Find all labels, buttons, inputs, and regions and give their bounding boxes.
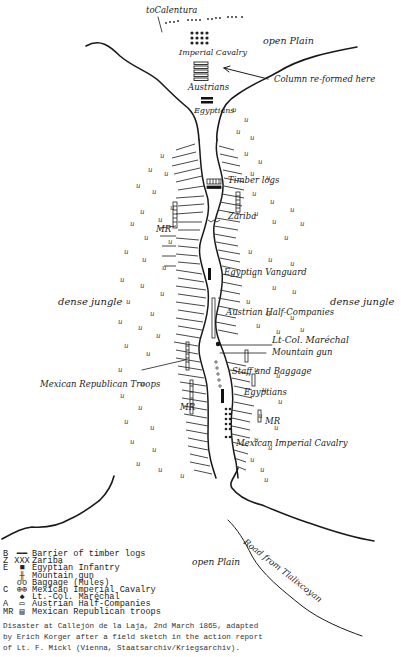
svg-text:u: u — [256, 322, 261, 330]
svg-text:u: u — [170, 204, 175, 212]
ravine-edge-right-bottom — [231, 468, 374, 541]
svg-text:u: u — [300, 326, 305, 334]
imperial-cavalry-top-symbol — [190, 31, 208, 44]
label-mr-right: MR — [264, 416, 281, 426]
svg-text:u: u — [244, 150, 249, 158]
label-dense-jungle-right: dense jungle — [330, 296, 395, 307]
svg-text:u: u — [142, 256, 147, 264]
svg-text:u: u — [152, 446, 157, 454]
caption-line-3: of Lt. F. Mickl (Vienna, Staatsarchiv/Kr… — [3, 643, 263, 654]
baggage-mules-symbol — [215, 361, 221, 387]
svg-text:u: u — [290, 206, 295, 214]
svg-text:u: u — [244, 116, 249, 124]
svg-text:u: u — [126, 298, 131, 306]
svg-text:u: u — [150, 310, 155, 318]
egyptian-vanguard-symbol — [208, 268, 211, 280]
label-road-from-tlalixcoyan: Road from Tlalixcoyan — [241, 536, 324, 604]
ravine-edge-right-top — [217, 47, 357, 140]
svg-text:u: u — [250, 134, 255, 142]
svg-text:u: u — [250, 456, 255, 464]
svg-text:u: u — [264, 476, 269, 484]
svg-text:u: u — [118, 318, 123, 326]
republican-troops-icon: ▤ — [12, 609, 32, 616]
svg-text:u: u — [138, 404, 143, 412]
legend-row-republican: MR ▤ Mexican Republican troops — [3, 609, 161, 616]
svg-text:u: u — [130, 438, 135, 446]
label-mountain-gun: Mountain gun — [271, 347, 333, 357]
label-lt-col-marechal: Lt-Col. Maréchal — [271, 335, 349, 345]
ravine-edge-left-bottom — [2, 476, 114, 539]
svg-text:u: u — [292, 288, 297, 296]
map-caption: Disaster at Callejón de la Laja, 2nd Mar… — [3, 621, 263, 654]
timber-logs-barrier — [207, 179, 221, 189]
label-zariba: Zariba — [227, 211, 256, 221]
hatching-left — [160, 144, 212, 474]
svg-text:u: u — [146, 350, 151, 358]
svg-text:u: u — [130, 220, 135, 228]
mexican-imperial-cavalry-symbol — [225, 408, 232, 439]
label-austrians: Austrians — [187, 82, 230, 92]
svg-text:u: u — [300, 220, 305, 228]
label-mr-lower-left: MR — [179, 402, 196, 412]
caption-line-1: Disaster at Callejón de la Laja, 2nd Mar… — [3, 621, 263, 632]
label-mexican-imperial-cavalry: Mexican Imperial Cavalry — [235, 438, 348, 448]
svg-text:u: u — [140, 282, 145, 290]
label-egyptians-bottom: Egyptians — [243, 387, 288, 397]
svg-text:u: u — [272, 218, 277, 226]
label-staff-and-baggage: Staff and Baggage — [232, 366, 311, 376]
svg-text:u: u — [162, 264, 167, 272]
svg-text:u: u — [138, 324, 143, 332]
cavalry-to-calentura-dots — [165, 16, 243, 24]
svg-text:u: u — [248, 248, 253, 256]
austrians-top-symbol — [194, 62, 208, 81]
label-egyptian-vanguard: Egyptian Vanguard — [223, 267, 307, 277]
svg-text:u: u — [118, 366, 123, 374]
svg-text:u: u — [150, 424, 155, 432]
svg-text:u: u — [120, 276, 125, 284]
svg-text:u: u — [268, 256, 273, 264]
map-legend: B ━━ Barrier of timber logs Z XXX Zariba… — [3, 551, 161, 616]
svg-text:u: u — [152, 188, 157, 196]
svg-text:u: u — [140, 208, 145, 216]
svg-text:u: u — [246, 298, 251, 306]
calentura-pointer — [158, 17, 162, 32]
egyptians-top-symbol — [201, 97, 213, 104]
zariba-right-symbol — [236, 192, 240, 212]
svg-text:u: u — [260, 466, 265, 474]
label-egyptians-top: Egyptians — [193, 106, 234, 115]
label-dense-jungle-left: dense jungle — [58, 296, 123, 307]
svg-text:u: u — [120, 392, 125, 400]
label-open-plain-bottom: open Plain — [192, 557, 240, 567]
svg-text:u: u — [258, 412, 263, 420]
svg-text:u: u — [124, 418, 129, 426]
label-mr-upper: MR — [155, 224, 172, 234]
svg-text:u: u — [156, 332, 161, 340]
svg-text:u: u — [164, 170, 169, 178]
svg-text:u: u — [124, 342, 129, 350]
label-austrian-half-companies: Austrian Half-Companies — [225, 307, 335, 317]
road-wall-left — [199, 140, 216, 478]
marechal-symbol — [216, 342, 220, 346]
svg-text:u: u — [136, 182, 141, 190]
svg-text:u: u — [180, 472, 185, 480]
svg-text:u: u — [148, 166, 153, 174]
ravine-edge-left-top — [86, 43, 199, 140]
svg-text:u: u — [136, 460, 141, 468]
mr-upper-left-symbol — [173, 202, 177, 228]
svg-text:u: u — [144, 234, 149, 242]
mex-rep-pointer — [142, 360, 185, 370]
jungle-marks: uuuu uuuu uuuu uuuu uuuu uuuu uuuu uuuu … — [118, 106, 305, 484]
svg-text:u: u — [124, 248, 129, 256]
svg-text:u: u — [258, 158, 263, 166]
svg-text:u: u — [278, 398, 283, 406]
austrian-half-companies-symbol — [212, 298, 215, 338]
svg-text:u: u — [270, 198, 275, 206]
zariba-symbol — [208, 220, 220, 222]
label-open-plain-top: open Plain — [263, 35, 314, 46]
label-mexican-republican-troops: Mexican Republican Troops — [39, 379, 161, 389]
svg-text:u: u — [168, 238, 173, 246]
svg-text:u: u — [272, 284, 277, 292]
svg-text:u: u — [252, 190, 257, 198]
column-arrow — [224, 68, 268, 79]
label-column-reformed: Column re-formed here — [274, 74, 375, 84]
